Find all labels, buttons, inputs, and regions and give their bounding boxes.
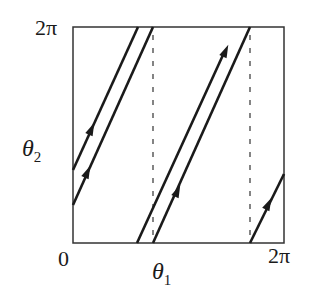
arrow-up-icon	[85, 121, 98, 136]
phase-portrait-diagram: 2π 0 2π θ2 θ1	[0, 0, 312, 292]
trajectory-left-lower	[73, 27, 153, 205]
trajectory-middle-left	[137, 55, 223, 243]
trajectory-middle-right	[153, 27, 250, 243]
arrow-up-icon	[81, 164, 94, 179]
trajectory-left-upper	[73, 27, 138, 170]
x-axis-label: θ1	[152, 258, 171, 288]
origin-label: 0	[58, 246, 69, 271]
y-axis-label: θ2	[22, 135, 41, 165]
y-axis-max-label: 2π	[35, 15, 57, 40]
x-axis-max-label: 2π	[268, 243, 290, 268]
